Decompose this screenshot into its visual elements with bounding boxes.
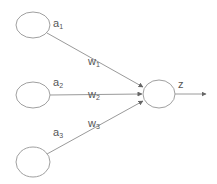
output-node <box>143 80 175 108</box>
label-w1: w1 <box>87 55 100 68</box>
label-a3: a3 <box>53 126 63 139</box>
neuron-diagram: a1 a2 a3 w1 w2 w3 z <box>0 0 217 184</box>
input-node-a2 <box>16 82 50 108</box>
label-w3: w3 <box>87 117 100 130</box>
input-node-a1 <box>16 12 50 38</box>
label-z: z <box>178 78 184 90</box>
label-a1: a1 <box>53 17 63 30</box>
label-a2: a2 <box>53 76 63 89</box>
input-node-a3 <box>16 147 50 177</box>
label-w2: w2 <box>87 88 100 101</box>
